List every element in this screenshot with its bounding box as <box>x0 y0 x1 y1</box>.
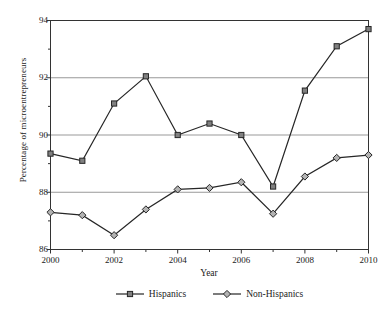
marker-square-hispanics-3 <box>143 74 148 79</box>
marker-square-hispanics-9 <box>334 44 339 49</box>
legend-entry-non-hispanics[interactable]: Non-Hispanics <box>212 289 303 299</box>
marker-square-hispanics-4 <box>175 132 180 137</box>
marker-square-hispanics-5 <box>207 121 212 126</box>
x-tick-label-2006: 2006 <box>221 256 261 265</box>
marker-square-hispanics-7 <box>271 184 276 189</box>
series-hispanics <box>48 26 371 189</box>
legend-label: Non-Hispanics <box>246 289 303 299</box>
marker-square-hispanics-0 <box>48 151 53 156</box>
marker-square-hispanics-10 <box>366 26 371 31</box>
x-tick-label-2000: 2000 <box>31 256 71 265</box>
legend-swatch-square-icon <box>115 289 145 299</box>
line-chart-figure: Percentage of microentrepreneurs 8688909… <box>0 0 391 310</box>
x-axis-label: Year <box>50 268 368 278</box>
x-axis-tick-labels: 200020022004200620082010 <box>0 254 391 268</box>
x-tick-label-2010: 2010 <box>349 256 389 265</box>
series-non-hispanics <box>47 151 372 238</box>
marker-square-hispanics-6 <box>239 132 244 137</box>
marker-square-hispanics-1 <box>80 158 85 163</box>
x-tick-label-2004: 2004 <box>158 256 198 265</box>
chart-legend: HispanicsNon-Hispanics <box>50 286 368 302</box>
series-line-1 <box>51 155 369 235</box>
marker-diamond-non-hispanics-5 <box>206 184 213 191</box>
marker-square-hispanics-2 <box>112 101 117 106</box>
marker-diamond-non-hispanics-9 <box>333 154 340 161</box>
marker-diamond-non-hispanics-1 <box>79 212 86 219</box>
marker-diamond-non-hispanics-0 <box>47 209 54 216</box>
series-line-0 <box>51 29 369 186</box>
x-tick-label-2002: 2002 <box>94 256 134 265</box>
marker-square-hispanics-8 <box>302 88 307 93</box>
marker-diamond-non-hispanics-10 <box>365 151 372 158</box>
legend-swatch-diamond-icon <box>212 289 242 299</box>
legend-entry-hispanics[interactable]: Hispanics <box>115 289 186 299</box>
x-tick-label-2008: 2008 <box>285 256 325 265</box>
legend-label: Hispanics <box>149 289 186 299</box>
